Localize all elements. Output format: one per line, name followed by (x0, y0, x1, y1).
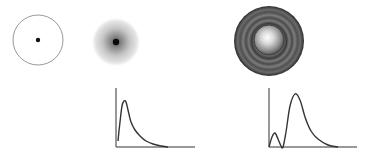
shell-sphere-panel (234, 6, 304, 76)
double-peak-chart (269, 88, 357, 148)
distribution-curve (269, 94, 338, 148)
orbital-diagram (0, 0, 366, 158)
nucleus-dot (113, 39, 119, 45)
electron-cloud-panel (91, 17, 141, 67)
distribution-curve (118, 101, 168, 147)
single-peak-chart (116, 88, 195, 147)
inner-shell (254, 25, 284, 55)
nucleus-dot (36, 38, 40, 42)
orbit-circle-panel (13, 15, 63, 65)
